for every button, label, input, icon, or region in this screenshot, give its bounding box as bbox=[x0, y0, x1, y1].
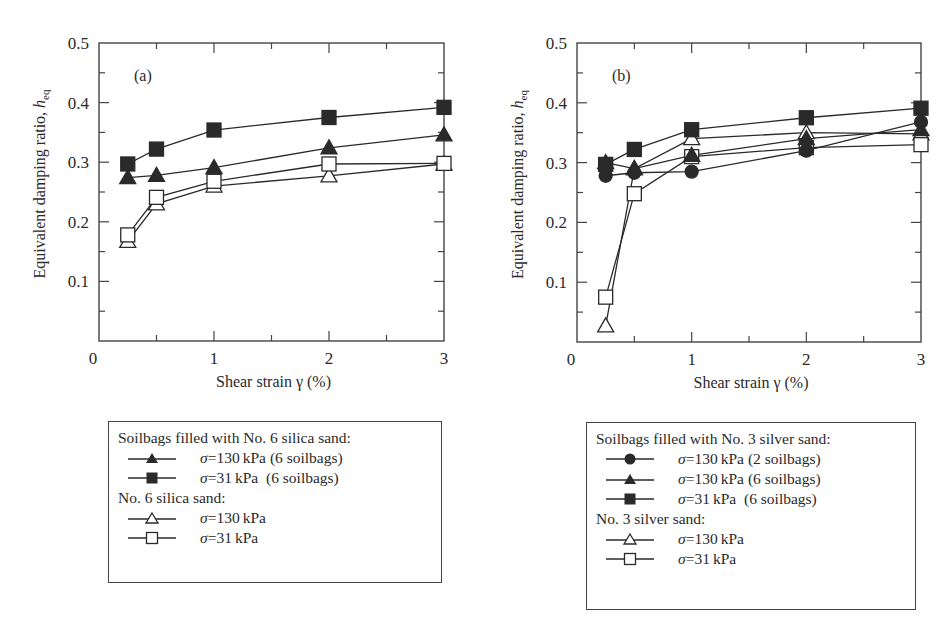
y-tick-label: 0.5 bbox=[546, 34, 567, 53]
filled-square-marker bbox=[914, 101, 928, 115]
x-tick-label: 1 bbox=[687, 350, 696, 369]
y-tick-label: 0.3 bbox=[546, 154, 567, 173]
x-axis-label: Shear strain γ (%) bbox=[216, 373, 331, 391]
legend-b-label: =31 kPa bbox=[686, 549, 737, 569]
series-line bbox=[128, 135, 444, 178]
legend-b-label: =130 kPa bbox=[686, 529, 744, 549]
y-tick-label: 0.2 bbox=[546, 213, 567, 232]
open-square-marker bbox=[207, 174, 221, 188]
x-tick-label: 0 bbox=[89, 349, 98, 368]
series-line bbox=[606, 133, 921, 326]
filled-triangle-marker bbox=[436, 127, 452, 141]
open-square-marker bbox=[322, 157, 336, 171]
x-axis-label: Shear strain γ (%) bbox=[693, 374, 808, 392]
legend-a-item-open-triangle: σ=130 kPa bbox=[118, 508, 433, 528]
y-tick-label: 0.1 bbox=[68, 272, 89, 291]
x-tick-label: 0 bbox=[567, 350, 576, 369]
filled-triangle-marker-icon bbox=[606, 472, 654, 486]
legend-a-label: =31 kPa bbox=[208, 528, 259, 548]
y-tick-label: 0.3 bbox=[68, 153, 89, 172]
plot-b: 0.10.20.30.40.50123Shear strain γ (%)Equ… bbox=[509, 34, 929, 392]
filled-square-marker bbox=[322, 111, 336, 125]
x-tick-label: 2 bbox=[802, 350, 811, 369]
legend-a-label: =31 kPa (6 soilbags) bbox=[208, 468, 339, 488]
legend-b-label: =31 kPa (6 soilbags) bbox=[686, 489, 817, 509]
legend-b-group2-title: No. 3 silver sand: bbox=[596, 509, 907, 529]
filled-square-marker bbox=[599, 157, 613, 171]
series-line bbox=[128, 164, 444, 241]
legend-b-item-open-triangle: σ=130 kPa bbox=[596, 529, 907, 549]
panel-label: (a) bbox=[134, 67, 152, 85]
legend-a: Soilbags filled with No. 6 silica sand: … bbox=[108, 421, 442, 583]
legend-a-group2-title: No. 6 silica sand: bbox=[118, 488, 433, 508]
chart-canvas: 0.10.20.30.40.50123Shear strain γ (%)Equ… bbox=[0, 0, 951, 400]
filled-square-marker bbox=[437, 100, 451, 114]
x-tick-label: 3 bbox=[917, 350, 926, 369]
open-triangle-marker-icon bbox=[606, 532, 654, 546]
open-triangle-marker-icon bbox=[128, 511, 176, 525]
open-triangle-marker bbox=[598, 318, 614, 332]
x-tick-label: 2 bbox=[325, 349, 334, 368]
filled-square-marker bbox=[150, 142, 164, 156]
filled-circle-marker bbox=[685, 165, 698, 178]
series-line bbox=[128, 163, 444, 235]
y-axis-label: Equivalent damping ratio, heq bbox=[31, 89, 51, 279]
filled-circle-marker-icon bbox=[606, 452, 654, 466]
filled-square-marker bbox=[627, 142, 641, 156]
open-square-marker bbox=[121, 228, 135, 242]
filled-square-marker-icon bbox=[606, 492, 654, 506]
filled-square-marker bbox=[799, 111, 813, 125]
open-square-marker bbox=[437, 156, 451, 170]
filled-circle-marker bbox=[800, 144, 813, 157]
legend-a-label: =130 kPa bbox=[208, 508, 266, 528]
legend-a-label: =130 kPa (6 soilbags) bbox=[208, 448, 343, 468]
legend-a-item-filled-square: σ=31 kPa (6 soilbags) bbox=[118, 468, 433, 488]
filled-square-marker bbox=[685, 123, 699, 137]
legend-a-item-open-square: σ=31 kPa bbox=[118, 528, 433, 548]
series-line bbox=[606, 145, 921, 297]
series-line bbox=[606, 108, 921, 164]
legend-b: Soilbags filled with No. 3 silver sand: … bbox=[586, 422, 916, 610]
y-tick-label: 0.2 bbox=[68, 213, 89, 232]
open-square-marker bbox=[914, 138, 928, 152]
y-tick-label: 0.5 bbox=[68, 34, 89, 53]
y-tick-label: 0.4 bbox=[68, 94, 90, 113]
y-axis-label: Equivalent damping ratio, heq bbox=[509, 90, 529, 280]
legend-b-item-filled-square: σ=31 kPa (6 soilbags) bbox=[596, 489, 907, 509]
filled-square-marker bbox=[121, 157, 135, 171]
y-tick-label: 0.4 bbox=[546, 94, 568, 113]
filled-square-marker-icon bbox=[128, 471, 176, 485]
x-tick-label: 1 bbox=[210, 349, 219, 368]
open-square-marker-icon bbox=[606, 552, 654, 566]
legend-b-label: =130 kPa (6 soilbags) bbox=[686, 469, 821, 489]
series-line bbox=[606, 122, 921, 176]
legend-b-item-filled-triangle: σ=130 kPa (6 soilbags) bbox=[596, 469, 907, 489]
open-square-marker bbox=[150, 190, 164, 204]
legend-b-label: =130 kPa (2 soilbags) bbox=[686, 449, 821, 469]
open-square-marker-icon bbox=[128, 531, 176, 545]
legend-b-group1-title: Soilbags filled with No. 3 silver sand: bbox=[596, 429, 907, 449]
open-square-marker bbox=[599, 290, 613, 304]
open-square-marker bbox=[627, 187, 641, 201]
legend-a-group1-title: Soilbags filled with No. 6 silica sand: bbox=[118, 428, 433, 448]
plot-a: 0.10.20.30.40.50123Shear strain γ (%)Equ… bbox=[31, 34, 452, 391]
legend-b-item-open-square: σ=31 kPa bbox=[596, 549, 907, 569]
filled-triangle-marker-icon bbox=[128, 451, 176, 465]
panel-label: (b) bbox=[612, 67, 631, 85]
x-tick-label: 3 bbox=[440, 349, 449, 368]
y-tick-label: 0.1 bbox=[546, 273, 567, 292]
legend-b-item-filled-circle: σ=130 kPa (2 soilbags) bbox=[596, 449, 907, 469]
filled-square-marker bbox=[207, 123, 221, 137]
legend-a-item-filled-triangle: σ=130 kPa (6 soilbags) bbox=[118, 448, 433, 468]
